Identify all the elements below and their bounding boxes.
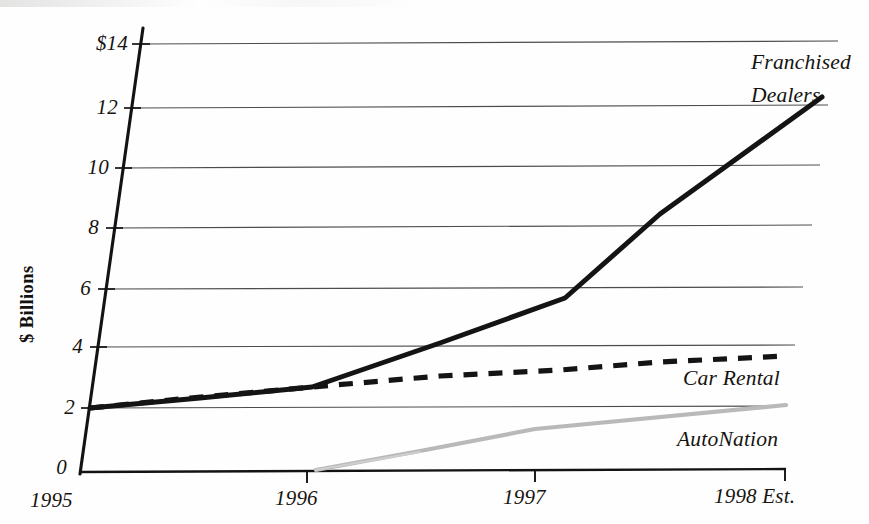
- series-label-franchised-dealers-line2: Dealers: [751, 83, 820, 108]
- gridline-4: [96, 345, 795, 347]
- y-tick-label-8: 8: [64, 215, 99, 240]
- y-tick-label-12: 12: [72, 95, 118, 120]
- gridline-14: [139, 41, 838, 44]
- y-tick-label-4: 4: [48, 334, 83, 359]
- chart-container: $14 12 10 8 6 4 2 0 1995 1996 1997 1998 …: [0, 0, 869, 524]
- gridline-6: [104, 287, 803, 289]
- y-tick-label-2: 2: [40, 395, 75, 420]
- x-axis: [80, 469, 786, 472]
- x-tick-label-1997: 1997: [503, 485, 546, 510]
- gridline-10: [121, 165, 820, 168]
- x-tick-label-1995: 1995: [30, 488, 73, 513]
- x-tick-label-1998: 1998 Est.: [714, 484, 795, 509]
- x-tick-label-1996: 1996: [275, 486, 318, 511]
- series-label-franchised-dealers-line1: Franchised: [751, 50, 851, 75]
- y-tick-label-6: 6: [56, 276, 91, 301]
- y-tick-label-0: 0: [32, 455, 67, 480]
- series-label-car-rental: Car Rental: [683, 366, 780, 391]
- gridlines: [88, 41, 838, 408]
- gridline-2: [88, 406, 787, 408]
- gridline-8: [112, 225, 812, 228]
- y-tick-label-14: $14: [72, 31, 128, 56]
- gridline-12: [130, 105, 828, 108]
- series-line-autonation-taper: [316, 452, 420, 470]
- series-label-autonation: AutoNation: [677, 427, 778, 452]
- y-axis-title: $ Billions: [17, 265, 38, 343]
- series-line-franchised-dealers: [90, 97, 822, 408]
- y-tick-label-10: 10: [64, 155, 109, 180]
